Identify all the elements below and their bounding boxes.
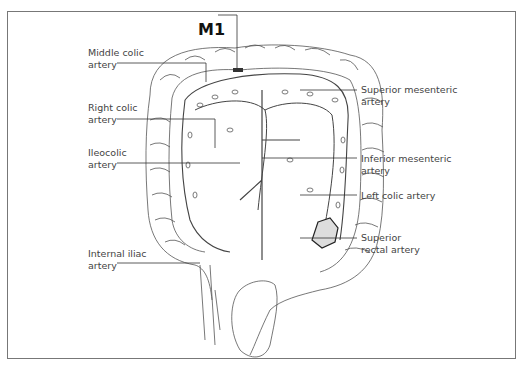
- label-internal-iliac: Internal iliac artery: [88, 248, 147, 271]
- label-inferior-mesenteric: Inferior mesenteric artery: [361, 153, 452, 176]
- label-right-colic: Right colic artery: [88, 102, 138, 125]
- label-superior-mesenteric: Superior mesenteric artery: [361, 84, 457, 107]
- tumor-mass: [312, 218, 338, 248]
- arcade-vessels: [185, 74, 348, 240]
- colon-outline: [150, 45, 383, 355]
- m1-title: M1: [198, 20, 225, 39]
- m1-marker: [233, 68, 243, 72]
- label-left-colic: Left colic artery: [361, 190, 435, 202]
- label-ileocolic: Ileocolic artery: [88, 147, 127, 170]
- label-middle-colic: Middle colic artery: [88, 47, 144, 70]
- colon-vascular-illustration: [0, 0, 523, 366]
- label-superior-rectal: Superior rectal artery: [361, 232, 420, 255]
